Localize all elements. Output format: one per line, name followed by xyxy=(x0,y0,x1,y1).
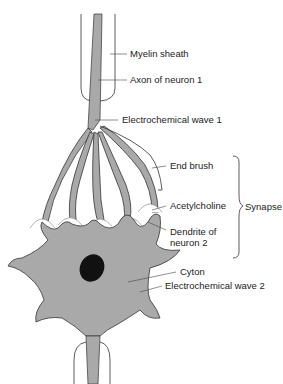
synapse-bracket xyxy=(233,156,243,258)
label-synapse: Synapse xyxy=(245,201,282,212)
label-wave-1: Electrochemical wave 1 xyxy=(122,114,222,125)
label-end-brush: End brush xyxy=(170,160,213,171)
label-acetylcholine: Acetylcholine xyxy=(170,200,226,211)
label-dendrite-line2: neuron 2 xyxy=(170,237,208,248)
label-dendrite-line1: Dendrite of xyxy=(170,226,216,237)
label-axon: Axon of neuron 1 xyxy=(130,74,202,85)
label-cyton: Cyton xyxy=(180,266,205,277)
label-myelin-sheath: Myelin sheath xyxy=(130,48,189,59)
axon-neuron-2 xyxy=(86,336,100,384)
label-wave-2: Electrochemical wave 2 xyxy=(165,280,265,291)
axon-neuron-1 xyxy=(88,14,102,130)
